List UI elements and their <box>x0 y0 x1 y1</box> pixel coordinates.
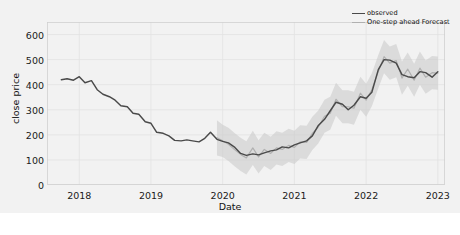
legend-label-forecast: One-step ahead Forecast <box>367 18 450 27</box>
x-tick-label-2021: 2021 <box>282 190 306 201</box>
y-tick-label-100: 100 <box>4 154 44 165</box>
legend-swatch-observed <box>352 13 365 14</box>
line-chart-svg <box>47 22 445 185</box>
y-axis-label: close price <box>10 54 21 144</box>
legend-item-forecast: One-step ahead Forecast <box>352 18 450 27</box>
x-tick-label-2020: 2020 <box>211 190 235 201</box>
x-axis-label: Date <box>0 201 460 212</box>
legend-label-observed: observed <box>367 9 398 18</box>
y-tick-label-600: 600 <box>4 29 44 40</box>
y-axis-tick-labels: 0100200300400500600 <box>0 22 44 185</box>
x-tick-label-2022: 2022 <box>354 190 378 201</box>
x-tick-label-2018: 2018 <box>67 190 91 201</box>
chart-figure: 0100200300400500600 20182019202020212022… <box>0 0 460 235</box>
x-tick-label-2023: 2023 <box>426 190 450 201</box>
x-tick-label-2019: 2019 <box>139 190 163 201</box>
legend-item-observed: observed <box>352 9 450 18</box>
plot-area <box>47 22 445 185</box>
legend-swatch-forecast <box>352 22 365 23</box>
chart-legend: observed One-step ahead Forecast <box>352 9 450 27</box>
y-tick-label-0: 0 <box>4 180 44 191</box>
